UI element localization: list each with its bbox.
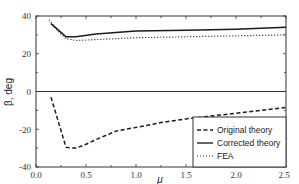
xtick-label: 1.5 bbox=[180, 170, 192, 180]
xtick-label: 2.5 bbox=[278, 170, 290, 180]
ytick-label: 0 bbox=[27, 87, 32, 97]
xtick-label: 0.0 bbox=[30, 170, 42, 180]
y-axis-label: β, deg bbox=[3, 78, 14, 106]
ytick-label: 40 bbox=[22, 11, 32, 21]
chart: 40 20 0 -20 -40 0.0 0.5 1.0 1.5 2.0 2.5 … bbox=[0, 0, 299, 184]
legend: Original theory Corrected theory FEA bbox=[193, 117, 286, 167]
xtick-label: 2.0 bbox=[230, 170, 242, 180]
xtick-label: 1.0 bbox=[130, 170, 142, 180]
legend-label: FEA bbox=[217, 151, 234, 161]
x-axis-label: μ bbox=[156, 174, 163, 184]
series-line-solid bbox=[51, 24, 286, 37]
legend-label: Original theory bbox=[217, 125, 273, 135]
ytick-label: 20 bbox=[22, 49, 32, 59]
ytick-label: -20 bbox=[19, 125, 31, 135]
legend-label: Corrected theory bbox=[217, 138, 281, 148]
xtick-label: 0.5 bbox=[80, 170, 92, 180]
